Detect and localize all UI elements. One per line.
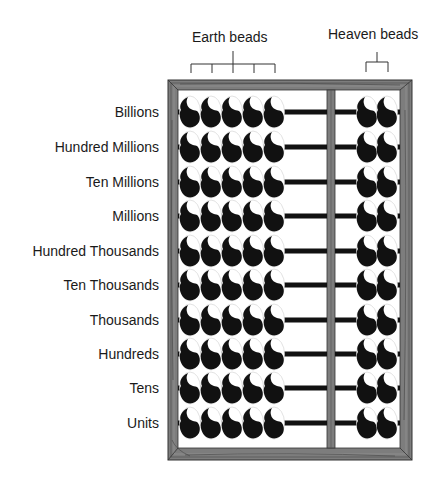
earth-bead (222, 235, 243, 267)
earth-bead (222, 338, 243, 370)
heaven-bead (377, 166, 398, 198)
abacus-drawing (0, 0, 447, 485)
earth-bead (201, 131, 222, 163)
heaven-bead (377, 269, 398, 301)
earth-bead (264, 200, 285, 232)
earth-bead (264, 269, 285, 301)
earth-bead (264, 131, 285, 163)
earth-bead (243, 407, 264, 439)
earth-bead (180, 131, 201, 163)
earth-bead (243, 304, 264, 336)
heaven-bead (357, 235, 378, 267)
earth-bead (264, 304, 285, 336)
heaven-bead (357, 166, 378, 198)
earth-bead (222, 166, 243, 198)
earth-bead (243, 269, 264, 301)
heaven-bead (377, 96, 398, 128)
heaven-bead (377, 200, 398, 232)
earth-bracket (191, 51, 275, 73)
earth-bead (243, 96, 264, 128)
earth-bead (201, 166, 222, 198)
heaven-bead (357, 338, 378, 370)
heaven-bead (377, 131, 398, 163)
earth-bead (201, 304, 222, 336)
heaven-bead (377, 407, 398, 439)
earth-bead (222, 269, 243, 301)
earth-bead (180, 338, 201, 370)
earth-bead (180, 166, 201, 198)
earth-bead (222, 96, 243, 128)
earth-bead (201, 200, 222, 232)
earth-bead (180, 372, 201, 404)
heaven-bead (357, 407, 378, 439)
earth-bead (201, 407, 222, 439)
earth-bead (264, 338, 285, 370)
earth-bead (243, 372, 264, 404)
earth-bead (222, 407, 243, 439)
heaven-bead (357, 372, 378, 404)
earth-bead (222, 304, 243, 336)
heaven-bead (377, 338, 398, 370)
earth-bead (264, 235, 285, 267)
earth-bead (264, 407, 285, 439)
earth-bead (264, 372, 285, 404)
heaven-bead (357, 131, 378, 163)
earth-bead (201, 372, 222, 404)
heaven-bead (357, 200, 378, 232)
heaven-bracket (366, 52, 388, 72)
earth-bead (180, 269, 201, 301)
heaven-bead (357, 304, 378, 336)
earth-bead (180, 407, 201, 439)
earth-bead (201, 235, 222, 267)
heaven-bead (357, 269, 378, 301)
earth-bead (180, 96, 201, 128)
earth-bead (264, 166, 285, 198)
earth-bead (243, 131, 264, 163)
heaven-bead (377, 235, 398, 267)
earth-bead (201, 338, 222, 370)
earth-bead (180, 304, 201, 336)
earth-bead (243, 200, 264, 232)
heaven-bead (377, 372, 398, 404)
earth-bead (180, 235, 201, 267)
earth-bead (201, 269, 222, 301)
earth-bead (243, 338, 264, 370)
earth-bead (222, 131, 243, 163)
heaven-bead (377, 304, 398, 336)
heaven-bead (357, 96, 378, 128)
earth-bead (264, 96, 285, 128)
earth-bead (243, 235, 264, 267)
earth-bead (243, 166, 264, 198)
earth-bead (222, 372, 243, 404)
earth-bead (180, 200, 201, 232)
earth-bead (222, 200, 243, 232)
earth-bead (201, 96, 222, 128)
